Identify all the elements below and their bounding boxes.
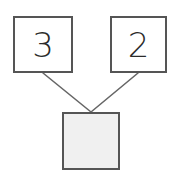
- addend-left-value: 3: [32, 28, 54, 62]
- connector-line-left: [43, 73, 91, 112]
- addend-box-left[interactable]: 3: [13, 16, 73, 73]
- addend-right-value: 2: [128, 28, 150, 62]
- sum-box-empty[interactable]: [62, 112, 120, 170]
- addend-box-right[interactable]: 2: [110, 16, 167, 73]
- number-bond-diagram: 3 2: [0, 0, 175, 181]
- connector-line-right: [91, 73, 138, 112]
